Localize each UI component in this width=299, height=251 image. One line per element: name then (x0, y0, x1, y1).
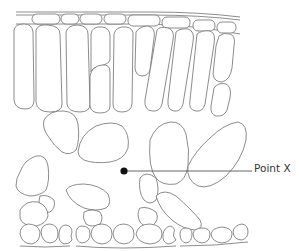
point-x-marker (120, 167, 127, 174)
point-x-label: Point X (254, 162, 291, 174)
leaf-cross-section-diagram (0, 0, 299, 251)
spongy-mesophyll (16, 111, 246, 230)
lower-epidermis (20, 224, 248, 248)
palisade-mesophyll (14, 24, 235, 116)
